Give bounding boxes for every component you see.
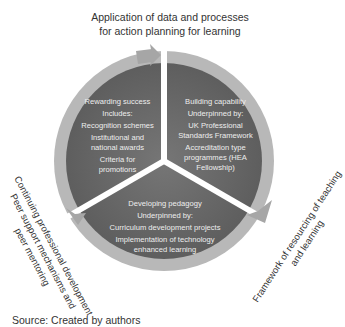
sector-item: Criteria for: [75, 155, 160, 165]
sector-item: Recognition schemes: [75, 121, 160, 131]
sector-item: Accreditation type: [168, 143, 263, 153]
sector-item: Curriculum development projects: [104, 223, 226, 233]
sector-item: Institutional and: [75, 133, 160, 143]
sector-building-capability: Building capability Underpinned by: UK P…: [168, 97, 263, 175]
sector-item: enhanced learning: [104, 245, 226, 255]
sector-subtitle: Includes:: [75, 109, 160, 119]
sector-item: programmes (HEA: [168, 153, 263, 163]
source-caption: Source: Created by authors: [12, 314, 140, 326]
sector-rewarding-success: Rewarding success Includes: Recognition …: [75, 97, 160, 177]
sector-developing-pedagogy: Developing pedagogy Underpinned by: Curr…: [104, 199, 226, 257]
top-label-line-2: for action planning for learning: [70, 24, 270, 38]
sector-item: Standards Framework: [168, 131, 263, 141]
sector-item: Fellowship): [168, 163, 263, 173]
sector-item: promotions: [75, 165, 160, 175]
sector-item: UK Professional: [168, 121, 263, 131]
sector-title: Building capability: [168, 97, 263, 107]
sector-title: Developing pedagogy: [104, 199, 226, 209]
cycle-diagram: Application of data and processes for ac…: [0, 0, 345, 327]
top-label: Application of data and processes for ac…: [70, 10, 270, 38]
sector-item: Implementation of technology: [104, 235, 226, 245]
sector-subtitle: Underpinned by:: [104, 211, 226, 221]
sector-title: Rewarding success: [75, 97, 160, 107]
sector-subtitle: Underpinned by:: [168, 109, 263, 119]
top-label-line-1: Application of data and processes: [70, 10, 270, 24]
sector-item: national awards: [75, 143, 160, 153]
